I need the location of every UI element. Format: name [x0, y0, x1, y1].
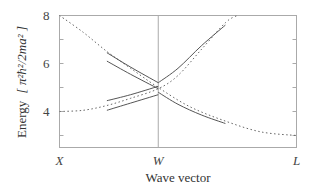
x-tick-label: L	[292, 153, 300, 168]
x-tick-label: W	[153, 153, 165, 168]
band-curve	[107, 95, 158, 111]
y-tick-label: 8	[43, 8, 50, 23]
series-layer	[60, 16, 297, 136]
free-electron-curve	[60, 16, 238, 112]
y-tick-label: 4	[43, 104, 50, 119]
band-curve	[158, 92, 225, 123]
x-axis-ticks: XWL	[55, 16, 301, 169]
y-axis-title: Energy [ π²ħ²/2ma² ]	[14, 26, 29, 138]
y-axis-title-unit: [ π²ħ²/2ma² ]	[14, 26, 29, 93]
free-electron-curve	[60, 16, 297, 136]
y-tick-label: 6	[43, 56, 50, 71]
svg-text:Energy [ π²ħ²/2ma² ]: Energy [ π²ħ²/2ma² ]	[14, 26, 29, 138]
y-axis-ticks: 468	[43, 8, 297, 136]
band-curve	[107, 61, 158, 89]
band-curve	[107, 86, 158, 100]
x-axis-title: Wave vector	[146, 170, 212, 185]
y-axis-title-word: Energy	[14, 100, 29, 138]
band-curve	[158, 25, 225, 83]
band-structure-chart: 468 XWL Wave vector Energy [ π²ħ²/2ma² ]	[0, 0, 313, 188]
x-tick-label: X	[55, 153, 65, 168]
plot-frame	[60, 16, 297, 148]
band-curve	[107, 53, 158, 83]
